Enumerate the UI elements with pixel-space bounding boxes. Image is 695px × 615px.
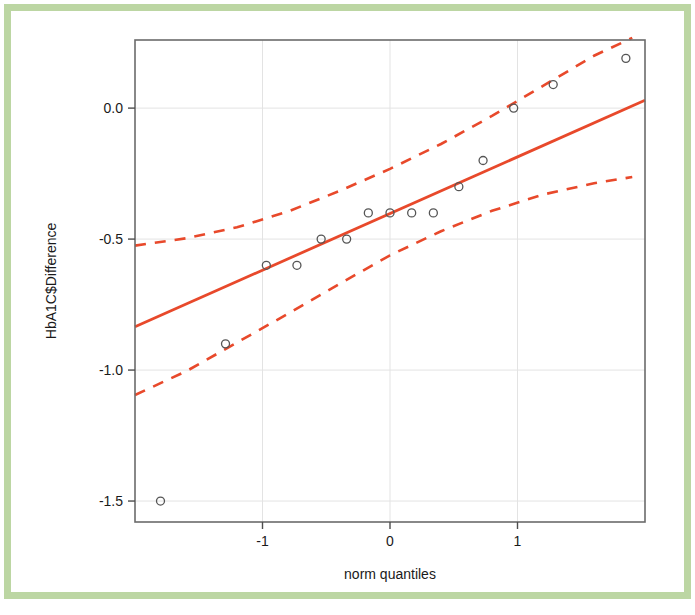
y-axis-tick-label: 0.0 [104,100,124,116]
y-axis-tick-label: -0.5 [99,231,123,247]
x-axis-title: norm quantiles [344,566,436,582]
y-axis-title: HbA1C$Difference [43,223,59,340]
y-axis-tick-label: -1.5 [99,493,123,509]
y-axis-tick-label: -1.0 [99,362,123,378]
x-axis-tick-label: -1 [256,533,269,549]
qq-plot: 0.0-0.5-1.0-1.5-101norm quantilesHbA1C$D… [0,0,695,615]
x-axis: -101 [256,522,521,549]
y-axis: 0.0-0.5-1.0-1.5 [99,100,135,509]
x-axis-tick-label: 0 [386,533,394,549]
figure-container: 0.0-0.5-1.0-1.5-101norm quantilesHbA1C$D… [0,0,695,615]
x-axis-tick-label: 1 [514,533,522,549]
